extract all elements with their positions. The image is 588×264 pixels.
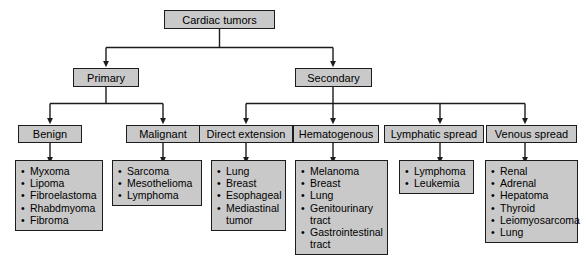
bullet-icon: • [301,177,305,189]
node-label: Cardiac tumors [182,14,257,26]
bullet-icon: • [491,177,495,189]
list-items: •Sarcoma •Mesothelioma •Lymphoma [118,165,198,202]
list-item: •Leiomyosarcoma [491,214,574,226]
list-item: •Leukemia [405,177,470,189]
bullet-icon: • [301,202,305,214]
bullet-icon: • [21,177,25,189]
bullet-icon: • [118,165,122,177]
list-benign[interactable]: •Myxoma •Lipoma •Fibroelastoma •Rhabdmyo… [15,160,103,231]
node-hematogenous[interactable]: Hematogenous [293,125,379,143]
list-item-continuation: tract [310,238,384,250]
bullet-icon: • [118,189,122,201]
list-items: •Myxoma •Lipoma •Fibroelastoma •Rhabdmyo… [21,165,99,226]
bullet-icon: • [405,165,409,177]
list-item-text: Lung [500,226,523,238]
list-item-text: Hepatoma [500,189,548,201]
node-primary[interactable]: Primary [73,68,139,87]
cardiac-tumors-flowchart: Cardiac tumors Primary Secondary Benign … [0,0,588,264]
node-label: Benign [33,128,67,140]
list-item-text: Esophageal [226,189,281,201]
bullet-icon: • [491,202,495,214]
list-item: •Fibroma [21,214,99,226]
list-item: •Adrenal [491,177,574,189]
node-benign[interactable]: Benign [18,125,82,143]
node-venous-spread[interactable]: Venous spread [486,125,577,143]
list-item-text: Sarcoma [127,165,169,177]
bullet-icon: • [301,165,305,177]
list-item: •Lung [301,189,384,201]
node-label: Direct extension [207,128,286,140]
bullet-icon: • [118,177,122,189]
list-item: •Lymphoma [118,189,198,201]
node-secondary[interactable]: Secondary [295,68,372,87]
list-venous-spread[interactable]: •Renal •Adrenal •Hepatoma •Thyroid •Leio… [485,160,578,243]
list-item-text: Leiomyosarcoma [500,214,580,226]
list-item: •Lipoma [21,177,99,189]
bullet-icon: • [21,189,25,201]
list-item: •Gastrointestinaltract [301,226,384,250]
list-item-text: Fibroma [30,214,69,226]
list-item: •Myxoma [21,165,99,177]
list-item-text: Lymphoma [127,189,179,201]
bullet-icon: • [21,214,25,226]
list-item-text: Lung [226,165,249,177]
list-item: •Genitourinarytract [301,202,384,226]
bullet-icon: • [21,165,25,177]
list-item-text: Lung [310,189,333,201]
list-item-continuation: tract [310,214,384,226]
list-lymphatic-spread[interactable]: •Lymphoma •Leukemia [399,160,474,194]
node-label: Primary [87,72,125,84]
list-item-text: Myxoma [30,165,70,177]
list-item: •Mesothelioma [118,177,198,189]
list-item-text: Gastrointestinal [310,226,383,238]
list-item-text: Breast [310,177,340,189]
list-item-text: Renal [500,165,527,177]
list-item-text: Leukemia [414,177,460,189]
list-item-text: Adrenal [500,177,536,189]
list-item-text: Melanoma [310,165,359,177]
list-item: •Hepatoma [491,189,574,201]
list-item: •Lung [491,226,574,238]
list-item-text: Mesothelioma [127,177,192,189]
bullet-icon: • [405,177,409,189]
node-malignant[interactable]: Malignant [126,125,200,143]
list-items: •Lymphoma •Leukemia [405,165,470,189]
list-item-text: Fibroelastoma [30,189,97,201]
bullet-icon: • [491,214,495,226]
list-item-text: Lipoma [30,177,64,189]
list-item: •Melanoma [301,165,384,177]
bullet-icon: • [301,189,305,201]
bullet-icon: • [21,202,25,214]
list-item-text: Lymphoma [414,165,466,177]
list-hematogenous[interactable]: •Melanoma •Breast •Lung •Genitourinarytr… [295,160,388,255]
list-item-continuation: tumor [226,214,282,226]
list-items: •Melanoma •Breast •Lung •Genitourinarytr… [301,165,384,250]
list-item: •Breast [217,177,282,189]
list-item: •Renal [491,165,574,177]
node-label: Lymphatic spread [391,128,477,140]
bullet-icon: • [217,189,221,201]
list-direct-extension[interactable]: •Lung •Breast •Esophageal •Mediastinaltu… [211,160,286,231]
list-item-text: Thyroid [500,202,535,214]
list-item: •Esophageal [217,189,282,201]
node-label: Venous spread [495,128,568,140]
node-lymphatic-spread[interactable]: Lymphatic spread [384,125,484,143]
node-label: Secondary [307,72,360,84]
list-item: •Thyroid [491,202,574,214]
node-label: Hematogenous [299,128,374,140]
list-item: •Breast [301,177,384,189]
list-malignant[interactable]: •Sarcoma •Mesothelioma •Lymphoma [112,160,202,206]
list-item: •Rhabdmyoma [21,202,99,214]
list-item: •Fibroelastoma [21,189,99,201]
bullet-icon: • [491,189,495,201]
node-direct-extension[interactable]: Direct extension [199,125,293,143]
list-item-text: Genitourinary [310,202,373,214]
bullet-icon: • [491,165,495,177]
list-item: •Sarcoma [118,165,198,177]
list-item-text: Mediastinal [226,202,279,214]
bullet-icon: • [301,226,305,238]
list-item: •Mediastinaltumor [217,202,282,226]
node-cardiac-tumors[interactable]: Cardiac tumors [164,10,275,29]
list-item: •Lung [217,165,282,177]
bullet-icon: • [217,202,221,214]
